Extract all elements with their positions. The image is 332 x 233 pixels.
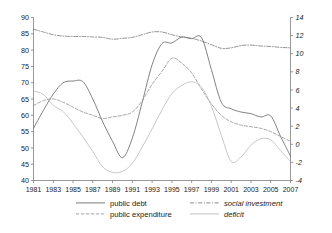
legend-label-public-debt: public debt: [110, 199, 148, 208]
y-axis-left-tick-label: 65: [21, 95, 29, 104]
y-axis-left-tick-label: 80: [21, 46, 29, 55]
y-axis-left-tick-label: 40: [21, 176, 29, 185]
y-axis-right-tick-label: 0: [296, 140, 300, 149]
y-axis-right-tick-label: 8: [296, 67, 300, 76]
y-axis-left-tick-label: 60: [21, 111, 29, 120]
y-axis-left-tick-label: 85: [21, 29, 29, 38]
x-axis-tick-label: 1997: [184, 186, 200, 193]
x-axis-tick-label: 2001: [223, 186, 239, 193]
chart-legend: public debtsocial investmentpublic expen…: [76, 199, 283, 219]
y-axis-right-tick-label: 10: [296, 49, 304, 58]
series-line-public-debt: [34, 36, 291, 158]
y-axis-right-tick-label: 14: [296, 13, 304, 22]
chart-container: 4045505560657075808590 -4-202468101214 1…: [0, 0, 332, 233]
x-axis-tick-label: 2007: [283, 186, 299, 193]
x-axis-tick-label: 1993: [144, 186, 160, 193]
x-axis-tick-label: 2005: [263, 186, 279, 193]
y-axis-right-tick-label: 6: [296, 86, 300, 95]
x-axis-tick-label: 1989: [105, 186, 121, 193]
y-axis-left: 4045505560657075808590: [21, 13, 34, 185]
x-axis-tick-label: 1981: [26, 186, 42, 193]
x-axis-tick-label: 1985: [65, 186, 81, 193]
y-axis-right-tick-label: -2: [296, 158, 302, 167]
y-axis-left-tick-label: 55: [21, 127, 29, 136]
x-axis-tick-label: 1995: [164, 186, 180, 193]
y-axis-right-tick-label: -4: [296, 176, 302, 185]
series-line-public-expenditure: [34, 58, 291, 141]
legend-label-social-investment: social investment: [224, 199, 283, 208]
series-line-social-investment: [34, 29, 291, 48]
x-axis-tick-label: 1999: [204, 186, 220, 193]
axis-frame: [34, 18, 291, 181]
y-axis-right-tick-label: 4: [296, 104, 300, 113]
x-axis-tick-label: 1991: [125, 186, 141, 193]
y-axis-right-tick-label: 2: [295, 122, 300, 131]
x-axis-tick-label: 1987: [85, 186, 101, 193]
x-axis-tick-label: 2003: [243, 186, 259, 193]
y-axis-left-tick-label: 70: [21, 78, 29, 87]
y-axis-left-tick-label: 75: [21, 62, 29, 71]
y-axis-left-tick-label: 50: [21, 144, 29, 153]
line-chart: 4045505560657075808590 -4-202468101214 1…: [0, 0, 332, 233]
y-axis-right-tick-label: 12: [296, 31, 304, 40]
series-line-deficit: [34, 82, 291, 173]
legend-label-public-expenditure: public expenditure: [110, 210, 172, 219]
series-group: [34, 29, 291, 173]
x-axis: 1981198319851987198919911993199519971999…: [26, 181, 299, 193]
x-axis-tick-label: 1983: [45, 186, 61, 193]
y-axis-left-tick-label: 45: [21, 160, 29, 169]
legend-label-deficit: deficit: [224, 210, 245, 219]
y-axis-right: -4-202468101214: [291, 13, 304, 185]
y-axis-left-tick-label: 90: [21, 13, 29, 22]
